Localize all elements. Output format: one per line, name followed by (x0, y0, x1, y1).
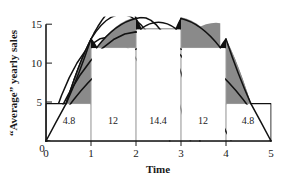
x-tick-label-5: 5 (268, 147, 274, 159)
bar-value-label-0: 4.8 (63, 115, 76, 126)
y-tick-label-15: 15 (31, 18, 43, 30)
x-tick-label-3: 3 (178, 147, 184, 159)
bar-value-label-2: 14.4 (149, 115, 167, 126)
bar-value-label-3: 12 (198, 115, 208, 126)
y-axis-title: “Average” yearly sales (7, 29, 19, 136)
bar-value-label-1: 12 (108, 115, 118, 126)
x-tick-label-2: 2 (133, 147, 139, 159)
y-tick-label-5: 5 (37, 96, 43, 108)
bar-value-label-4: 4.8 (242, 115, 255, 126)
x-tick-label-0: 0 (43, 147, 49, 159)
y-axis-ticks (46, 24, 52, 102)
sales-bar-chart: “Average” yearly sales 15 10 5 0 (0, 0, 292, 177)
x-tick-label-4: 4 (223, 147, 229, 159)
x-tick-label-1: 1 (88, 147, 94, 159)
x-axis-title: Time (146, 163, 170, 175)
y-tick-label-10: 10 (31, 57, 43, 69)
chart-container: “Average” yearly sales 15 10 5 0 (0, 0, 292, 177)
